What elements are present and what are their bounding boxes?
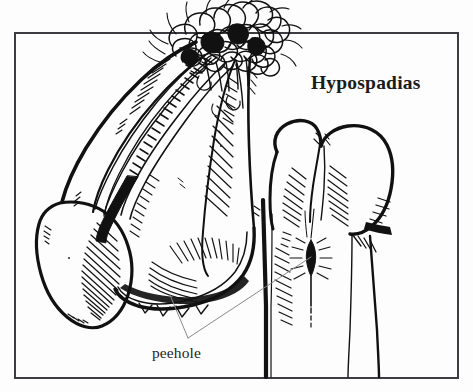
figure-background [0, 0, 473, 392]
callout-label-peehole: peehole [152, 344, 201, 362]
hypospadias-illustration [0, 0, 473, 392]
figure-container: Hypospadias [0, 0, 473, 392]
figure-title: Hypospadias [311, 72, 421, 94]
